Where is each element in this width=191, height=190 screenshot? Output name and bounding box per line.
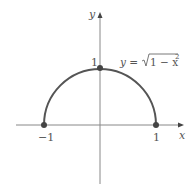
point-pos-one bbox=[153, 122, 159, 128]
x-axis-arrow-icon bbox=[178, 123, 184, 128]
equation-label: y = 1 − x 2 bbox=[119, 53, 179, 68]
equation-lhs: y = bbox=[119, 56, 138, 68]
tick-label-y-pos: 1 bbox=[91, 56, 98, 69]
tick-label-x-neg: −1 bbox=[38, 131, 54, 144]
point-neg-one bbox=[41, 122, 47, 128]
y-axis-label: y bbox=[88, 8, 96, 21]
equation-exponent: 2 bbox=[175, 53, 179, 61]
x-axis-label: x bbox=[179, 129, 186, 142]
equation-radicand: 1 − x bbox=[150, 56, 178, 68]
y-axis-arrow-icon bbox=[98, 12, 103, 18]
tick-label-x-pos: 1 bbox=[153, 131, 160, 144]
graph-canvas: y x −1 1 1 y = 1 − x 2 bbox=[0, 0, 191, 190]
